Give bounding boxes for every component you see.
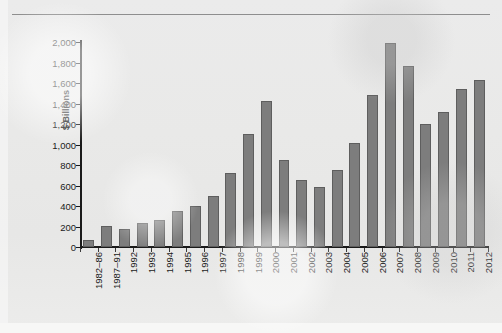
plot-area bbox=[80, 42, 488, 247]
x-axis-tick-label: 1993 bbox=[146, 252, 157, 273]
y-axis-tick-label: 600 bbox=[34, 180, 76, 191]
x-axis-tick-label: 2006 bbox=[377, 252, 388, 273]
x-axis-tick-label: 2004 bbox=[341, 252, 352, 273]
y-axis-tick-label: 800 bbox=[34, 160, 76, 171]
y-axis-tick-label: 400 bbox=[34, 201, 76, 212]
bar bbox=[190, 206, 201, 248]
x-axis-tick-label: 2012 bbox=[483, 252, 494, 273]
x-axis-tick-label: 2000 bbox=[270, 252, 281, 273]
x-axis-tick-label: 2007 bbox=[394, 252, 405, 273]
bar bbox=[349, 143, 360, 247]
x-axis-tick-label: 1998 bbox=[235, 252, 246, 273]
bar bbox=[261, 101, 272, 247]
bar-chart: $ Billions 02004006008001,0001,2001,4001… bbox=[0, 0, 502, 333]
y-axis-tick bbox=[76, 63, 81, 64]
x-axis-tick-label: 2009 bbox=[430, 252, 441, 273]
bar bbox=[279, 160, 290, 247]
bar bbox=[474, 80, 485, 247]
y-axis-tick bbox=[76, 124, 81, 125]
x-axis-tick-label: 1994 bbox=[164, 252, 175, 273]
y-axis-tick-label: 1,800 bbox=[34, 57, 76, 68]
bar bbox=[243, 134, 254, 247]
y-axis-tick bbox=[76, 165, 81, 166]
y-axis-tick bbox=[76, 42, 81, 43]
x-axis-tick-label: 2003 bbox=[323, 252, 334, 273]
bar bbox=[438, 112, 449, 247]
bar bbox=[119, 229, 130, 247]
y-axis-tick bbox=[76, 206, 81, 207]
x-axis-tick-label: 1995 bbox=[182, 252, 193, 273]
y-axis-tick bbox=[76, 186, 81, 187]
bar bbox=[456, 89, 467, 247]
x-axis-tick-label: 1987–91 bbox=[111, 252, 122, 289]
bar bbox=[83, 240, 94, 247]
bar bbox=[314, 187, 325, 247]
bar bbox=[172, 211, 183, 247]
x-axis-tick-label: 2010 bbox=[448, 252, 459, 273]
bar bbox=[101, 226, 112, 247]
bar bbox=[332, 170, 343, 247]
x-axis-tick-label: 2011 bbox=[465, 252, 476, 272]
y-axis-tick-label: 200 bbox=[34, 221, 76, 232]
x-axis-tick-label: 2008 bbox=[412, 252, 423, 273]
bar bbox=[385, 43, 396, 247]
y-axis-tick bbox=[76, 104, 81, 105]
x-axis-tick-label: 1992 bbox=[128, 252, 139, 273]
y-axis-tick-label: 1,600 bbox=[34, 78, 76, 89]
y-axis-tick-labels: 02004006008001,0001,2001,4001,6001,8002,… bbox=[34, 0, 76, 333]
bar bbox=[225, 173, 236, 247]
x-axis-tick-label: 1996 bbox=[199, 252, 210, 273]
y-axis-tick bbox=[76, 227, 81, 228]
x-axis-tick-label: 2002 bbox=[306, 252, 317, 273]
x-axis-tick-label: 1982–86 bbox=[93, 252, 104, 289]
y-axis-tick-label: 2,000 bbox=[34, 37, 76, 48]
bar bbox=[403, 66, 414, 247]
bar bbox=[154, 220, 165, 247]
y-axis-tick bbox=[76, 145, 81, 146]
y-axis-tick-label: 1,000 bbox=[34, 139, 76, 150]
y-axis-tick bbox=[76, 83, 81, 84]
y-axis-tick-label: 1,400 bbox=[34, 98, 76, 109]
bar bbox=[296, 180, 307, 247]
figure-page: $ Billions 02004006008001,0001,2001,4001… bbox=[0, 0, 502, 333]
x-axis-tick-label: 2005 bbox=[359, 252, 370, 273]
x-axis-tick-label: 1999 bbox=[253, 252, 264, 273]
bar bbox=[367, 95, 378, 247]
x-axis-tick-label: 2001 bbox=[288, 252, 299, 273]
bar bbox=[137, 223, 148, 247]
x-axis-tick-labels: 1982–861987–9119921993199419951996199719… bbox=[80, 252, 488, 327]
y-axis-tick-label: 0 bbox=[34, 242, 76, 253]
y-axis-tick-label: 1,200 bbox=[34, 119, 76, 130]
bar bbox=[208, 196, 219, 247]
x-axis-tick-label: 1997 bbox=[217, 252, 228, 273]
bar bbox=[420, 124, 431, 248]
